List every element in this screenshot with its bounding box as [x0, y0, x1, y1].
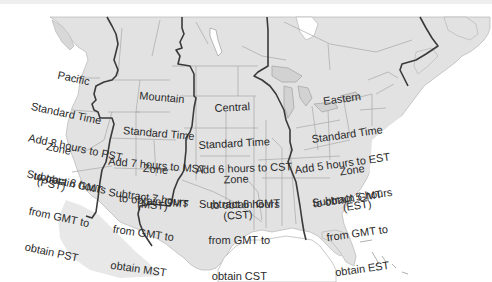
central-name-line-1: Central	[196, 99, 268, 115]
central-sub-line-3: obtain CST	[199, 270, 280, 282]
eastern-subtract-from-gmt: Subtract 5 hours from GMT to obtain EST	[308, 162, 405, 282]
pacific-sub-line-1: Subtract 8 hours	[26, 167, 107, 196]
mountain-name-line-1: Mountain	[126, 88, 198, 106]
pacific-sub-line-2: from GMT to	[18, 203, 99, 232]
eastern-sub-line-3: obtain EST	[321, 257, 403, 280]
eastern-name-line-1: Eastern	[306, 88, 379, 110]
mountain-subtract-from-gmt: Subtract 7 hours from GMT to obtain MST	[96, 162, 193, 282]
central-sub-line-1: Subtract 6 hours	[199, 198, 280, 210]
eastern-sub-line-2: from GMT to	[316, 221, 398, 244]
mountain-sub-line-2: from GMT to	[103, 221, 185, 244]
mountain-sub-line-3: obtain MST	[98, 257, 180, 280]
eastern-sub-line-1: Subtract 5 hours	[311, 186, 393, 209]
top-edge-strip	[0, 0, 492, 4]
pacific-sub-line-3: obtain PST	[11, 238, 92, 267]
pacific-name-line-1: Pacific	[38, 65, 110, 92]
central-sub-line-2: from GMT to	[199, 234, 280, 246]
mountain-sub-line-1: Subtract 7 hours	[108, 186, 190, 209]
central-subtract-from-gmt: Subtract 6 hours from GMT to obtain CST	[199, 174, 280, 282]
